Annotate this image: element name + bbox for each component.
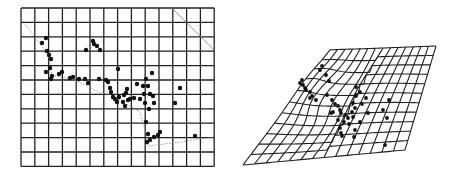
deformed-grid-panel: [243, 46, 436, 165]
figure-canvas: [0, 0, 453, 178]
reference-grid-panel: [21, 8, 214, 166]
